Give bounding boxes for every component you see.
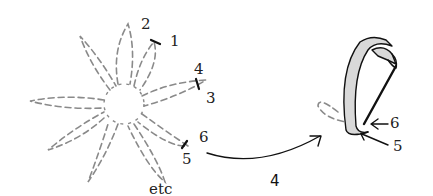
arrow-5-icon (361, 132, 388, 145)
petal-bottom (88, 124, 118, 182)
label-etc: etc (149, 180, 172, 196)
label-5: 5 (182, 150, 192, 168)
label-right-6: 6 (390, 114, 400, 132)
step-number-label: 4 (270, 172, 280, 190)
transition-arrow: 4 (207, 136, 321, 190)
petal-top-left (80, 36, 116, 90)
label-right-5: 5 (393, 137, 403, 155)
stitch-tick-3-4 (196, 79, 199, 89)
arrow-6-icon (371, 119, 388, 129)
petal-top-right (134, 42, 155, 90)
petal-bottom-right (128, 124, 165, 182)
flower-figure: 2 1 4 3 6 5 etc (30, 15, 216, 196)
petal-ghost (318, 102, 346, 122)
label-3: 3 (206, 89, 216, 107)
petal-bottom-left (48, 112, 104, 150)
label-2: 2 (141, 15, 151, 33)
label-4: 4 (194, 60, 204, 78)
stitch-diagram: 2 1 4 3 6 5 etc 4 6 5 (0, 0, 433, 196)
label-1: 1 (170, 32, 180, 50)
label-6: 6 (199, 128, 209, 146)
petal-top (116, 24, 132, 84)
ribbon-loop-figure: 6 5 (318, 37, 403, 155)
ribbon-fold (372, 48, 396, 64)
petal-left (30, 97, 104, 108)
